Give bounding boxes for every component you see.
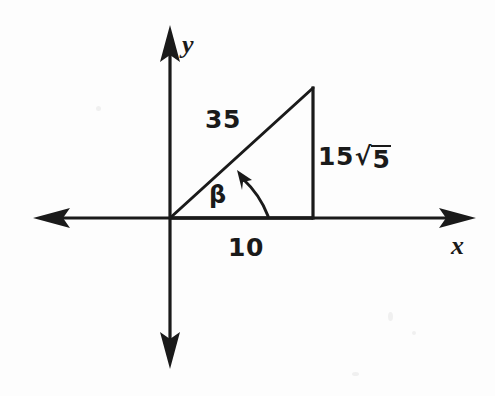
radical-expression: 15 √ 5 <box>318 144 391 173</box>
x-axis-label: x <box>451 233 464 259</box>
vertical-leg-length-label: 15 √ 5 <box>318 144 391 173</box>
radicand-value: 5 <box>371 145 390 173</box>
radical-sign-icon: √ <box>355 144 372 169</box>
triangle-hypotenuse <box>170 88 313 218</box>
geometry-figure: 35 10 15 √ 5 β y x <box>0 0 495 396</box>
y-axis <box>160 25 180 369</box>
angle-beta-label: β <box>209 183 226 207</box>
y-axis-label: y <box>182 32 194 58</box>
radical-coefficient: 15 <box>318 144 354 169</box>
angle-arc-path <box>243 179 268 216</box>
hypotenuse-length-label: 35 <box>205 107 241 132</box>
base-length-label: 10 <box>228 235 264 260</box>
coordinate-plane-drawing <box>0 0 495 396</box>
angle-arc-beta <box>237 170 268 216</box>
right-triangle <box>170 88 313 218</box>
